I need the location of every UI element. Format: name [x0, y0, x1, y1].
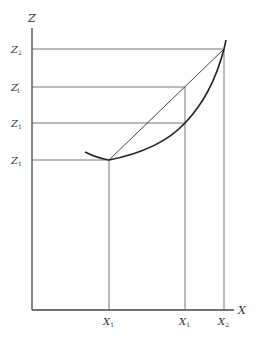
chord-line [109, 49, 224, 160]
z-tick-label-z2: Z2 [10, 44, 22, 56]
svg-text:Z1: Z1 [10, 118, 22, 130]
svg-text:Z′1: Z′1 [10, 82, 20, 94]
x-tick-label-x1-left: X1 [102, 316, 114, 328]
convex-curve [85, 40, 226, 160]
z-tick-label-z1-lower: Z1 [10, 155, 22, 167]
z-axis-label: Z [27, 12, 36, 25]
x-axis-label: X [237, 304, 247, 317]
z-tick-label-z1-prime: Z′1 [10, 82, 20, 94]
z-tick-label-z1-upper: Z1 [10, 118, 22, 130]
svg-text:X1: X1 [178, 316, 190, 328]
svg-text:X2: X2 [217, 316, 229, 328]
x-tick-label-x2: X2 [217, 316, 229, 328]
diagram-canvas: Z X Z2 Z′1 Z1 Z1 X1 X1 X2 [0, 0, 263, 339]
x-tick-label-x1-right: X1 [178, 316, 190, 328]
svg-text:Z2: Z2 [10, 44, 22, 56]
svg-text:Z1: Z1 [10, 155, 22, 167]
svg-text:X1: X1 [102, 316, 114, 328]
